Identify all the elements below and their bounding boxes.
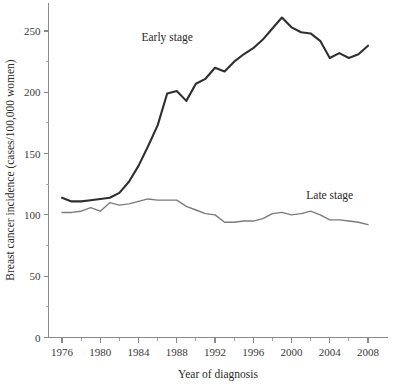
series-label-early-stage: Early stage [141, 31, 192, 44]
x-tick-label-1980: 1980 [89, 346, 112, 358]
y-tick-label-0: 0 [35, 332, 41, 344]
x-tick-label-1984: 1984 [128, 346, 151, 358]
x-tick-label-1992: 1992 [204, 346, 226, 358]
x-axis-major-ticks [62, 338, 368, 343]
x-tick-label-1976: 1976 [51, 346, 74, 358]
y-tick-label-250: 250 [24, 25, 41, 37]
x-tick-label-1988: 1988 [166, 346, 189, 358]
x-tick-label-1996: 1996 [242, 346, 265, 358]
y-tick-label-50: 50 [30, 270, 42, 282]
line-chart: 050100150200250 197619801984198819921996… [0, 0, 394, 384]
chart-figure: 050100150200250 197619801984198819921996… [0, 0, 394, 384]
x-axis-title: Year of diagnosis [178, 368, 258, 381]
y-axis-title: Breast cancer incidence (cases/100,000 w… [4, 59, 17, 280]
y-tick-label-100: 100 [24, 209, 41, 221]
x-tick-label-2008: 2008 [357, 346, 380, 358]
x-tick-label-2004: 2004 [319, 346, 342, 358]
series-line-late-stage [62, 199, 368, 225]
y-tick-label-200: 200 [24, 86, 41, 98]
y-axis-tick-labels: 050100150200250 [24, 25, 41, 344]
x-axis-tick-labels: 197619801984198819921996200020042008 [51, 346, 380, 358]
series-label-late-stage: Late stage [306, 189, 353, 202]
series-line-early-stage [62, 18, 368, 202]
x-tick-label-2000: 2000 [281, 346, 304, 358]
y-tick-label-150: 150 [24, 148, 41, 160]
